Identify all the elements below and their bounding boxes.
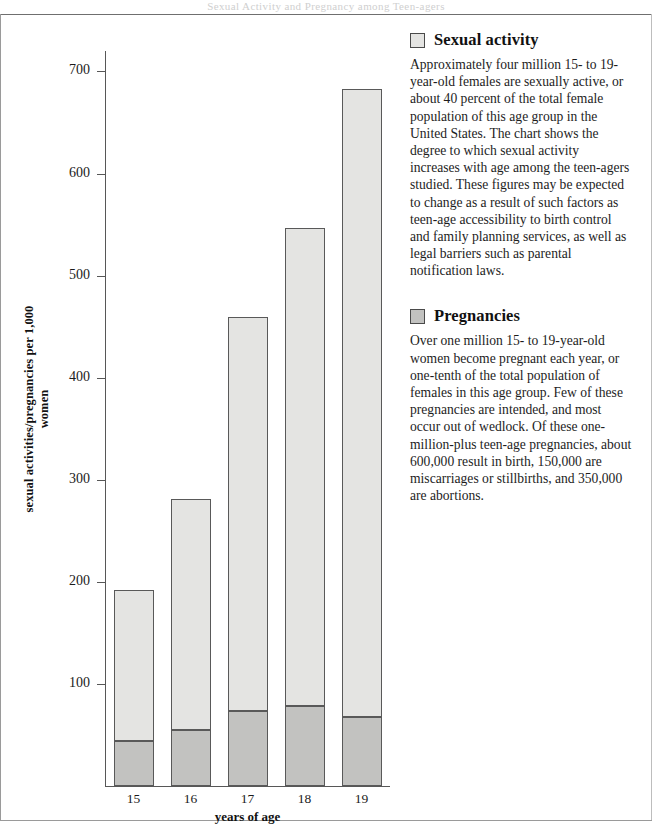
y-tick-label: 500 [28,267,90,283]
bar-segment-pregnancies[interactable] [228,711,268,786]
legend-title-pregnancies: Pregnancies [434,306,520,326]
legend-body-sexual-activity: Approximately four million 15- to 19-yea… [410,56,632,279]
bar-age-18[interactable] [285,229,325,786]
x-tick-label-18: 18 [276,791,333,807]
legend-block-pregnancies: Pregnancies Over one million 15- to 19-y… [410,306,632,504]
bar-segment-sexual-activity[interactable] [342,89,382,717]
y-tick-label: 600 [28,165,90,181]
y-tick-label: 700 [28,62,90,78]
x-axis-title: years of age [105,809,390,825]
bar-age-17[interactable] [228,318,268,786]
bar-age-15[interactable] [114,591,154,786]
legend-block-sexual-activity: Sexual activity Approximately four milli… [410,30,632,279]
bar-segment-pregnancies[interactable] [114,741,154,786]
bar-age-16[interactable] [171,500,211,786]
legend-swatch-sexual-activity-icon [410,33,425,48]
legend-body-pregnancies: Over one million 15- to 19-year-old wome… [410,332,632,504]
legend-header-sexual-activity: Sexual activity [410,30,632,50]
y-tick-label: 100 [28,675,90,691]
y-tick-label: 200 [28,573,90,589]
x-tick-label-19: 19 [333,791,390,807]
bar-segment-pregnancies[interactable] [285,706,325,786]
x-axis-line [105,786,390,787]
legend-title-sexual-activity: Sexual activity [434,30,539,50]
legend-header-pregnancies: Pregnancies [410,306,632,326]
y-axis-title: sexual activities/pregnancies per 1,000 … [22,294,52,524]
bar-segment-sexual-activity[interactable] [228,317,268,711]
legend-swatch-pregnancies-icon [410,309,425,324]
bar-age-19[interactable] [342,90,382,786]
bar-segment-pregnancies[interactable] [171,730,211,786]
bar-segment-sexual-activity[interactable] [114,590,154,741]
bar-segment-pregnancies[interactable] [342,717,382,786]
x-tick-label-16: 16 [162,791,219,807]
running-head: Sexual Activity and Pregnancy among Teen… [0,0,652,13]
bar-segment-sexual-activity[interactable] [285,228,325,707]
y-tick-label: 300 [28,471,90,487]
x-tick-label-15: 15 [105,791,162,807]
bar-segment-sexual-activity[interactable] [171,499,211,730]
page-canvas: Sexual Activity and Pregnancy among Teen… [0,0,652,835]
legend-panel: Sexual activity Approximately four milli… [410,30,632,518]
legend-spacer [410,293,632,306]
y-tick-label: 400 [28,369,90,385]
plot-area [105,51,390,786]
x-tick-label-17: 17 [219,791,276,807]
stacked-bar-chart: sexual activities/pregnancies per 1,000 … [0,14,400,820]
